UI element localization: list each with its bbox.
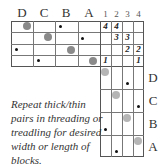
thick-treadle-mark [123, 114, 131, 122]
thick-treadle-mark [101, 68, 109, 76]
thin-treadle-mark [137, 105, 140, 108]
tieup-col-2: 2 [111, 10, 122, 19]
thin-thread-mark [59, 25, 62, 28]
thick-thread-mark [23, 22, 31, 30]
thick-thread-mark [67, 46, 75, 54]
tieup-col-4: 4 [133, 10, 144, 19]
tieup-col-3: 3 [122, 10, 133, 19]
tieup-cell: 1 [100, 55, 111, 66]
treadling-label-c: C [146, 94, 160, 107]
thin-thread-mark [15, 48, 18, 51]
grid-line [100, 135, 144, 136]
tieup-cell: 4 [100, 21, 111, 32]
treadling-label-b: B [146, 117, 160, 130]
tieup-cell: 3 [122, 32, 133, 43]
thick-treadle-mark [112, 91, 120, 99]
grid-line [100, 89, 144, 90]
tieup-cell: 1 [133, 55, 144, 66]
thin-treadle-mark [126, 82, 129, 85]
thick-treadle-mark [134, 137, 142, 145]
threading-label-d: D [11, 6, 33, 19]
tieup-cell: 4 [111, 21, 122, 32]
tieup-cell: 2 [133, 44, 144, 55]
threading-label-b: B [55, 6, 77, 19]
treadling-label-d: D [146, 71, 160, 84]
tieup-col-1: 1 [100, 10, 111, 19]
tieup-cell: 2 [122, 44, 133, 55]
grid-line [100, 112, 144, 113]
thick-thread-mark [44, 33, 52, 41]
threading-label-a: A [78, 6, 100, 19]
thick-thread-mark [89, 57, 97, 65]
thin-thread-mark [81, 37, 84, 40]
thin-thread-mark [37, 59, 40, 62]
instruction-note: Repeat thick/thin pairs in threading or … [11, 97, 103, 167]
thin-treadle-mark [115, 150, 118, 153]
treadling-label-a: A [146, 140, 160, 153]
thin-treadle-mark [104, 128, 107, 131]
tieup-cell: 3 [111, 32, 122, 43]
threading-label-c: C [33, 6, 55, 19]
